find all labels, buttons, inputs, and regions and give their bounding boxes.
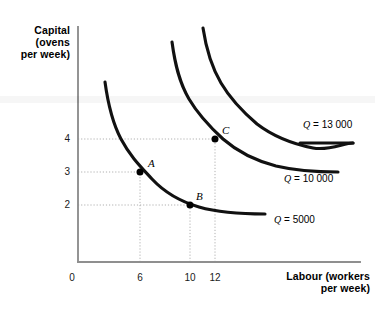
x-tick-label-12: 12 — [206, 272, 224, 284]
curve-label-q13000-value: = 13 000 — [310, 119, 352, 130]
curve-label-q5000-value: = 5000 — [281, 214, 315, 225]
x-axis-title-line-2: per week) — [321, 282, 370, 294]
curve-label-q5000: Q = 5000 — [274, 214, 315, 226]
point-label-c: C — [222, 124, 229, 137]
x-tick-label-10: 10 — [181, 272, 199, 284]
guide-lines — [78, 139, 215, 262]
curve-label-q10000-value: = 10 000 — [291, 173, 333, 184]
data-point-a — [137, 169, 144, 176]
isoquant-q5000 — [105, 82, 265, 214]
x-axis-title-line-1: Labour (workers — [286, 270, 370, 282]
y-tick-label-2: 2 — [56, 199, 70, 211]
point-label-b: B — [196, 190, 203, 203]
y-axis-title-line-1: Capital — [34, 24, 70, 36]
isoquant-chart: Capital(ovensper week) Labour (workerspe… — [0, 0, 375, 311]
y-tick-label-4: 4 — [56, 133, 70, 145]
y-tick-label-3: 3 — [56, 166, 70, 178]
x-axis-title: Labour (workersper week) — [258, 270, 370, 294]
point-label-a: A — [148, 157, 155, 170]
y-axis-title-line-3: per week) — [21, 48, 70, 60]
y-axis-title-line-2: (ovens — [36, 36, 70, 48]
x-tick-label-0: 0 — [63, 272, 81, 284]
data-point-c — [212, 136, 219, 143]
curve-label-q13000: Q = 13 000 — [303, 119, 352, 131]
y-axis-title: Capital(ovensper week) — [6, 24, 70, 61]
curve-label-q10000: Q = 10 000 — [284, 173, 333, 185]
x-tick-label-6: 6 — [131, 272, 149, 284]
data-point-b — [187, 202, 194, 209]
isoquant-q10000 — [172, 42, 338, 172]
